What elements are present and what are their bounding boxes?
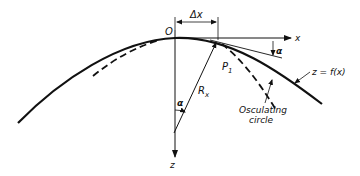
x-axis-label: x: [294, 33, 301, 43]
radius-subscript: x: [204, 91, 210, 99]
curve-label: z = f(x): [311, 67, 346, 77]
osculating-label-line2: circle: [249, 115, 274, 125]
point-p-subscript: 1: [228, 67, 232, 75]
point-p1-label: P1: [222, 61, 233, 75]
curve-label-leader: [295, 72, 310, 83]
radius-line: [174, 43, 216, 133]
osculating-label-leader: [265, 80, 272, 103]
osculating-circle-arc-right: [222, 44, 276, 110]
z-axis-label: z: [169, 160, 175, 170]
osculating-circle-diagram: O Δx x z P1 Rx α α z = f(x) Osculating c…: [0, 0, 360, 176]
angle-center-arc: [175, 110, 185, 112]
radius-label: Rx: [198, 85, 210, 99]
osculating-label-line1: Osculating: [239, 105, 287, 115]
angle-tangent-label: α: [276, 46, 283, 56]
radius-letter: R: [198, 85, 205, 96]
origin-label: O: [165, 26, 173, 37]
angle-center-label: α: [177, 98, 184, 108]
delta-x-label: Δx: [189, 9, 203, 20]
